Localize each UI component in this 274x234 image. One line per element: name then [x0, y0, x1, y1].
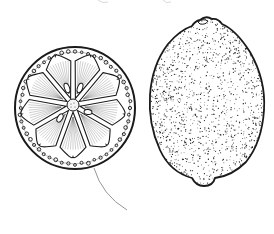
- core: [67, 99, 79, 111]
- top-remnant-marks: [98, 0, 171, 3]
- leader-line: [94, 168, 127, 210]
- stem-end: [198, 20, 208, 24]
- whole-lemon: [150, 17, 265, 186]
- lemon-cross-section: [15, 47, 135, 169]
- lemon-illustration: [0, 0, 274, 234]
